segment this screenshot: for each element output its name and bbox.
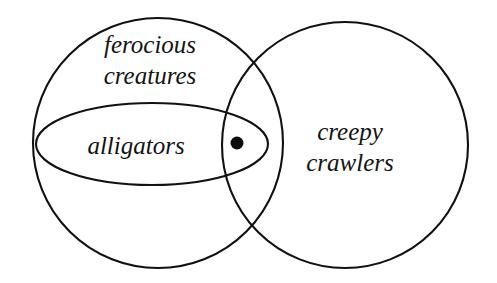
label-creepy-crawlers-line1: creepy (317, 118, 384, 145)
label-ferocious-creatures-line2: creatures (104, 62, 197, 89)
label-alligators: alligators (87, 132, 184, 159)
label-ferocious-creatures-line1: ferocious (104, 31, 196, 58)
label-creepy-crawlers-line2: crawlers (306, 149, 394, 176)
venn-diagram-canvas: ferocious creatures alligators creepy cr… (0, 0, 497, 283)
member-point-dot (231, 137, 244, 150)
set-circle-creepy-crawlers (222, 22, 468, 268)
venn-diagram: ferocious creatures alligators creepy cr… (0, 0, 497, 283)
